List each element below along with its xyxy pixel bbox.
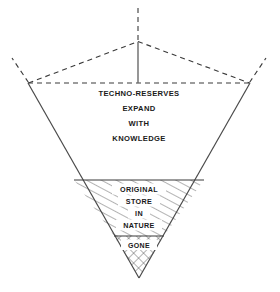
left-edge-extension — [12, 58, 29, 83]
techno-reserves-label-group: TECHNO-RESERVES EXPAND WITH KNOWLEDGE — [98, 89, 179, 143]
original-store-line-1: ORIGINAL — [120, 185, 158, 194]
techno-reserves-line-1: TECHNO-RESERVES — [98, 89, 179, 98]
original-store-line-4: NATURE — [123, 221, 155, 230]
figure-root: TECHNO-RESERVES EXPAND WITH KNOWLEDGE OR… — [0, 0, 280, 292]
original-store-line-2: STORE — [126, 197, 152, 206]
original-store-line-3: IN — [135, 209, 143, 218]
peak-left-slope — [29, 42, 139, 84]
techno-reserves-line-2: EXPAND — [122, 104, 155, 113]
dashed-construction-lines — [12, 8, 266, 83]
techno-reserves-line-3: WITH — [129, 119, 150, 128]
resource-triangle-diagram: TECHNO-RESERVES EXPAND WITH KNOWLEDGE OR… — [0, 0, 280, 292]
techno-reserves-line-4: KNOWLEDGE — [112, 134, 165, 143]
right-edge-extension — [250, 58, 267, 83]
gone-line-1: GONE — [128, 242, 150, 249]
gone-label-group: GONE — [121, 240, 157, 251]
peak-right-slope — [138, 42, 250, 84]
